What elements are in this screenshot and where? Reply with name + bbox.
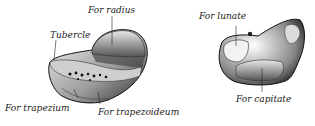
label-for-capitate: For capitate bbox=[236, 95, 291, 104]
label-tubercle: Tubercle bbox=[50, 31, 90, 40]
label-for-trapezoideum: For trapezoideum bbox=[98, 108, 179, 117]
label-for-trapezium: For trapezium bbox=[5, 104, 70, 113]
right-bone bbox=[219, 19, 304, 92]
label-for-lunate: For lunate bbox=[199, 12, 246, 21]
label-for-radius: For radius bbox=[88, 6, 135, 15]
